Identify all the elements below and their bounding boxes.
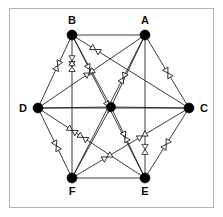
direction-marker-F-D [51,140,61,152]
direction-marker-B-D [53,60,63,72]
vertex-center [106,102,115,111]
vertex-label-e: E [141,185,148,197]
vertex-label-a: A [141,14,149,26]
vertex-d [33,103,43,113]
edge-A-G [111,35,145,107]
vertex-e [140,173,150,183]
direction-marker-B-F [69,56,75,66]
edge-F-G [72,107,111,178]
figure-root: BACEFD [0,0,223,217]
vertex-f [67,173,77,183]
edge-B-D [38,35,72,108]
direction-marker-B-C [90,44,102,55]
direction-marker-C-F [136,131,148,141]
vertex-label-c: C [200,102,208,114]
vertex-label-d: D [19,102,27,114]
vertex-a [140,30,150,40]
vertex-b [67,30,77,40]
vertex-layer [33,30,194,183]
vertex-c [184,103,194,113]
vertex-label-f: F [69,185,76,197]
direction-marker-A-E [142,144,148,154]
direction-marker-C-E [161,139,172,151]
vertex-label-b: B [68,14,76,26]
direction-marker-A-C [163,67,173,79]
graph-diagram: BACEFD [0,0,223,217]
direction-marker-E-G [120,131,130,143]
direction-marker-E-D [77,132,89,143]
direction-marker-A-F [118,72,128,84]
